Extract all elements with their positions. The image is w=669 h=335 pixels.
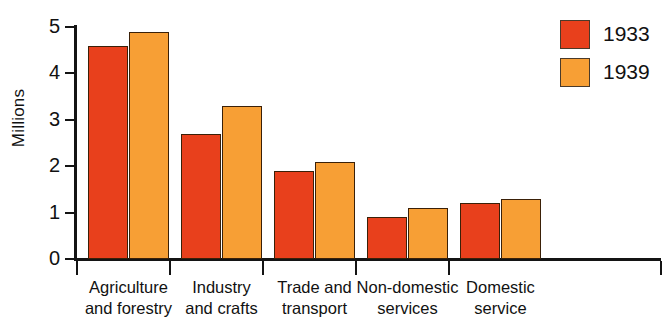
bar (460, 203, 500, 259)
legend-label: 1939 (603, 56, 650, 88)
x-axis-tick-mark (76, 261, 78, 275)
y-axis-tick-label: 3 (49, 107, 60, 131)
legend-label: 1933 (603, 18, 650, 50)
x-axis-category-label: Domesticservice (437, 277, 565, 319)
y-axis-title: Millions (9, 63, 29, 173)
bar (408, 208, 448, 259)
bar (222, 106, 262, 259)
y-axis-tick-mark (65, 258, 76, 260)
bar (315, 162, 355, 259)
bar-group (181, 27, 262, 259)
y-axis-tick-mark (65, 119, 76, 121)
bar (129, 32, 169, 259)
x-axis-tick-mark (169, 261, 171, 275)
y-axis-tick-mark (65, 72, 76, 74)
legend-color-swatch (560, 20, 590, 49)
category-label-line: Domestic (437, 277, 565, 298)
bar-group (88, 27, 169, 259)
bar-group (274, 27, 355, 259)
y-axis-tick-label: 2 (49, 153, 60, 177)
x-axis-tick-mark (262, 261, 264, 275)
bar (367, 217, 407, 259)
bar (501, 199, 541, 259)
y-axis-tick-label: 1 (49, 200, 60, 224)
bar-group (367, 27, 448, 259)
bar (274, 171, 314, 259)
y-axis-tick-label: 5 (49, 14, 60, 38)
bar (88, 46, 128, 259)
legend-color-swatch (560, 58, 590, 87)
bar-group (460, 27, 541, 259)
x-axis-tick-mark (448, 261, 450, 275)
y-axis-tick-label: 0 (49, 246, 60, 270)
y-axis-tick-label: 4 (49, 60, 60, 84)
y-axis-tick-mark (65, 165, 76, 167)
x-axis-tick-mark (355, 261, 357, 275)
category-label-line: service (437, 298, 565, 319)
x-axis-tick-mark (660, 261, 662, 275)
y-axis-tick-mark (65, 26, 76, 28)
y-axis-tick-mark (65, 212, 76, 214)
bar (181, 134, 221, 259)
bar-chart: Millions 012345 Agricultureand forestryI… (0, 0, 669, 335)
